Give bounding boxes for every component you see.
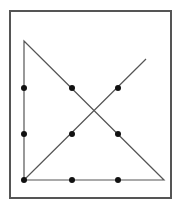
- nine-dot-diagram: [0, 0, 180, 208]
- dot: [69, 177, 75, 183]
- dot: [115, 85, 121, 91]
- dot: [21, 131, 27, 137]
- dot: [69, 131, 75, 137]
- dot: [115, 177, 121, 183]
- dot: [115, 131, 121, 137]
- solution-path: [24, 41, 164, 180]
- dot: [69, 85, 75, 91]
- dot: [21, 177, 27, 183]
- dot: [21, 85, 27, 91]
